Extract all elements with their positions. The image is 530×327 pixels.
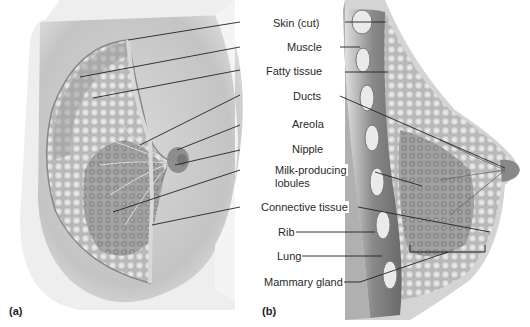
label-nipple: Nipple [291, 143, 324, 155]
label-muscle: Muscle [286, 41, 323, 53]
label-ducts: Ducts [292, 90, 322, 102]
label-milk-producing: Milk-producing [274, 164, 348, 176]
panel-b-illustration [343, 0, 520, 320]
label-fatty-tissue: Fatty tissue [265, 65, 323, 77]
label-connective-tissue: Connective tissue [260, 201, 349, 213]
label-mammary-gland: Mammary gland [263, 276, 344, 288]
panel-a-illustration [20, 0, 243, 310]
panel-label-b: (b) [262, 305, 276, 317]
label-skin-cut: Skin (cut) [272, 17, 320, 29]
panel-label-a: (a) [9, 305, 22, 317]
label-lung: Lung [276, 250, 302, 262]
label-areola: Areola [291, 118, 325, 130]
label-rib: Rib [277, 226, 296, 238]
label-lobules: lobules [274, 177, 311, 189]
